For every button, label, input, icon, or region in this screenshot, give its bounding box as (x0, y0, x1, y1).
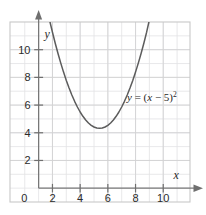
y-tick-label-4: 4 (24, 127, 30, 139)
y-tick-label-10: 10 (18, 44, 30, 56)
y-axis-label: y (44, 27, 51, 41)
equation-annotation: y = (x − 5)2 (126, 90, 177, 104)
equation-exponent: 2 (173, 90, 177, 99)
equation-middle: − 5) (152, 91, 173, 104)
y-tick-label-6: 6 (24, 99, 30, 111)
y-tick-label-8: 8 (24, 71, 30, 83)
x-tick-label-2: 2 (49, 192, 55, 204)
svg-text:y = (x − 5)2: y = (x − 5)2 (126, 90, 177, 104)
x-tick-label-10: 10 (157, 192, 169, 204)
x-tick-label-4: 4 (77, 192, 83, 204)
graph-figure: 2 4 6 8 10 0 2 4 6 8 10 y x y = (x − 5)2 (0, 0, 206, 215)
origin-label-zero: 0 (21, 192, 27, 204)
x-tick-label-6: 6 (105, 192, 111, 204)
x-axis-label: x (173, 168, 180, 182)
x-axis-arrowhead (194, 184, 204, 192)
y-tick-label-2: 2 (24, 154, 30, 166)
coordinate-plane-plot: 2 4 6 8 10 0 2 4 6 8 10 y x y = (x − 5)2 (0, 0, 206, 215)
y-axis-arrowhead (35, 10, 42, 20)
equation-operator: = ( (132, 91, 148, 104)
x-tick-label-8: 8 (132, 192, 138, 204)
